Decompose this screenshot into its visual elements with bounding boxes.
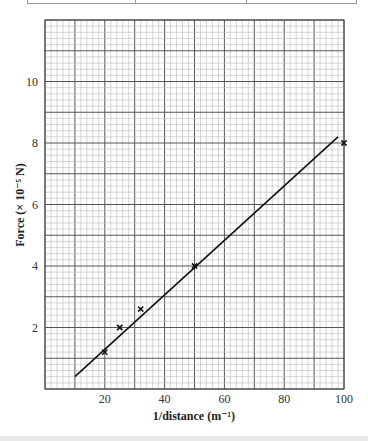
x-axis-tick-labels: 20406080100 <box>99 392 353 406</box>
x-tick-label: 100 <box>335 392 353 406</box>
x-tick-label: 60 <box>218 392 230 406</box>
y-tick-label: 8 <box>32 136 38 150</box>
force-vs-inverse-distance-chart: 246810 20406080100 Force (× 10⁻⁵ N) 1/di… <box>0 0 368 441</box>
y-tick-label: 2 <box>32 321 38 335</box>
graph-paper-grid <box>45 20 344 389</box>
page-footer-band <box>0 436 368 441</box>
x-tick-label: 40 <box>159 392 171 406</box>
y-axis-tick-labels: 246810 <box>26 75 38 335</box>
x-axis-title: 1/distance (m⁻¹) <box>153 409 235 423</box>
x-tick-label: 80 <box>278 392 290 406</box>
x-tick-label: 20 <box>99 392 111 406</box>
y-axis-title: Force (× 10⁻⁵ N) <box>13 163 27 247</box>
y-tick-label: 6 <box>32 198 38 212</box>
y-tick-label: 4 <box>32 259 38 273</box>
y-tick-label: 10 <box>26 75 38 89</box>
data-series <box>75 137 347 377</box>
